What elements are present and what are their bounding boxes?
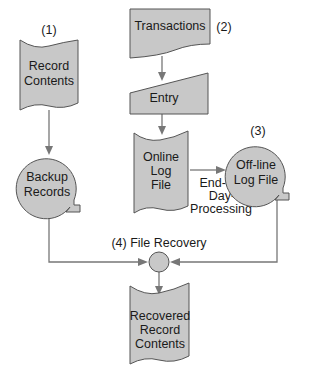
arrowhead-icon	[158, 126, 166, 135]
node-record-contents: (1) Record Contents	[20, 23, 78, 110]
node-entry: Entry	[130, 73, 208, 114]
node-label-line2: Contents	[24, 74, 74, 88]
node-label-line1: Online	[143, 150, 179, 164]
node-label-line1: Entry	[149, 91, 179, 105]
node-label-line2: Records	[24, 185, 71, 199]
step-label-1: (1)	[41, 23, 56, 37]
step-label-3: (3)	[250, 124, 265, 138]
node-file-recovery: (4) File Recovery	[111, 236, 207, 272]
node-label-line1: Transactions	[134, 19, 205, 33]
node-label-line1: Recovered	[130, 309, 190, 323]
node-label-line2: Log File	[234, 173, 279, 187]
arrowhead-icon	[216, 166, 226, 174]
node-offline-log: (3) Off-line Log File	[225, 124, 289, 207]
node-label-line2: Log	[151, 164, 172, 178]
step-label-4: (4) File Recovery	[111, 236, 207, 250]
node-label-line1: Record	[29, 59, 69, 73]
node-online-log: Online Log File	[134, 131, 188, 213]
node-label-line3: Contents	[135, 337, 185, 351]
arrowhead-icon	[138, 258, 148, 266]
node-label-line2: Record	[140, 323, 180, 337]
connector-circle-shape	[149, 252, 169, 272]
node-label-line1: Off-line	[236, 158, 276, 172]
node-recovered: Recovered Record Contents	[130, 283, 190, 364]
flowchart-canvas: (1) Record Contents Backup Records Trans…	[0, 0, 312, 370]
node-backup-records: Backup Records	[16, 159, 80, 219]
node-label-line1: Backup	[26, 170, 68, 184]
arrowhead-icon	[45, 146, 53, 155]
document-shape	[130, 9, 210, 58]
step-label-2: (2)	[216, 20, 231, 34]
arrowhead-icon	[158, 72, 166, 81]
node-transactions: Transactions (2)	[130, 9, 232, 58]
node-label-line3: File	[151, 178, 171, 192]
arrowhead-icon	[170, 258, 180, 266]
